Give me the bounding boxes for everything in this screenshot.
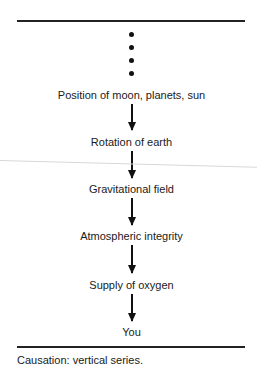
ellipsis-dot [129,32,134,37]
arrow-icon [131,294,133,321]
arrow-icon [131,104,133,130]
bottom-rule [17,346,245,348]
top-rule [17,20,245,22]
ellipsis-dot [129,71,134,76]
scan-line [0,160,257,168]
arrow-icon [131,198,133,225]
arrow-icon [131,151,133,178]
node-you: You [0,326,257,339]
node-atmospheric-integrity: Atmospheric integrity [0,230,257,243]
node-supply-of-oxygen: Supply of oxygen [0,279,257,292]
arrow-icon [131,245,133,273]
ellipsis-dot [129,45,134,50]
ellipsis-dot [129,58,134,63]
node-rotation-of-earth: Rotation of earth [0,136,257,149]
node-gravitational-field: Gravitational field [0,183,257,196]
node-position-moon-planets-sun: Position of moon, planets, sun [0,89,257,102]
figure-caption: Causation: vertical series. [17,354,143,367]
